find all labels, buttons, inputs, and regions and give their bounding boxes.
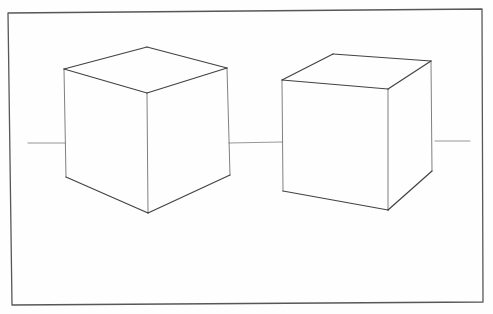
cube-top-edge xyxy=(388,61,431,89)
sketch-svg xyxy=(0,0,493,314)
cube-vertical-edge xyxy=(147,93,148,213)
cube-top-edge xyxy=(64,69,147,93)
cube-top-edge xyxy=(147,68,227,93)
cube-bottom-edge xyxy=(66,177,148,213)
cube-vertical-edge xyxy=(282,80,283,191)
cube-top-edge xyxy=(333,54,431,61)
left-cube xyxy=(64,47,230,213)
drawing-frame xyxy=(8,9,483,305)
cube-top-edge xyxy=(282,80,388,89)
cube-bottom-edge xyxy=(148,175,230,213)
cube-top-edge xyxy=(282,54,333,80)
sketch-canvas: Two cubes in two-point perspective xyxy=(0,0,493,314)
cube-top-edge xyxy=(147,47,227,68)
horizon-segment xyxy=(229,142,282,143)
cube-bottom-edge xyxy=(283,191,388,210)
cube-top-edge xyxy=(64,47,147,69)
cube-vertical-edge xyxy=(227,68,230,175)
cube-vertical-edge xyxy=(64,69,66,177)
cube-bottom-edge xyxy=(388,171,432,210)
horizon-line xyxy=(28,141,470,143)
right-cube xyxy=(282,54,432,210)
cube-vertical-edge xyxy=(431,61,432,171)
